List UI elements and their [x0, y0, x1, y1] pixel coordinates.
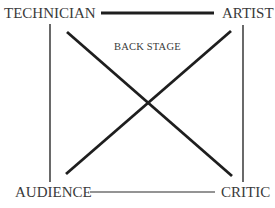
diagram-canvas: TECHNICIAN ARTIST AUDIENCE CRITIC BACK S…: [0, 0, 275, 208]
node-artist: ARTIST: [222, 6, 274, 21]
node-critic: CRITIC: [221, 185, 270, 200]
center-label-back-stage: BACK STAGE: [114, 42, 181, 53]
node-technician: TECHNICIAN: [4, 6, 96, 21]
diagram-edges: [0, 0, 275, 208]
node-audience: AUDIENCE: [15, 185, 92, 200]
edge-technician-critic: [67, 32, 232, 176]
